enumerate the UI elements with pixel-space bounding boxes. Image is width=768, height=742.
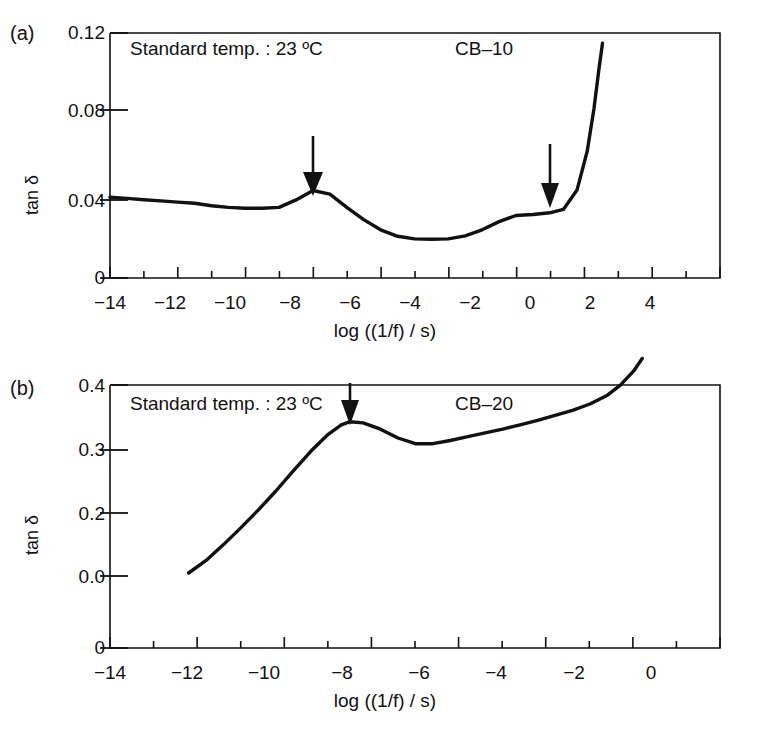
data-curve-b <box>189 359 643 574</box>
transition-arrow-b-1 <box>341 383 359 425</box>
plot-frame-a <box>110 33 720 278</box>
chart-panel-b: (b) tan δ Standard temp. : 23 ºC CB–20 0… <box>0 355 768 695</box>
x-axis-ticks-a <box>110 267 720 278</box>
plot-svg-a <box>0 0 768 355</box>
plot-svg-b <box>0 355 768 695</box>
bottom-caption-fragment <box>0 716 768 736</box>
y-axis-ticks-a <box>100 33 128 278</box>
plot-frame-b <box>110 385 720 648</box>
data-curve-a <box>110 43 603 239</box>
transition-arrow-a-2 <box>541 144 559 208</box>
transition-arrow-a-1 <box>303 136 323 196</box>
chart-panel-a: (a) tan δ Standard temp. : 23 ºC CB–10 0… <box>0 0 768 355</box>
x-axis-ticks-b <box>110 637 720 648</box>
figure-tan-delta-master-curves: (a) tan δ Standard temp. : 23 ºC CB–10 0… <box>0 0 768 742</box>
y-axis-ticks-b <box>100 385 128 648</box>
